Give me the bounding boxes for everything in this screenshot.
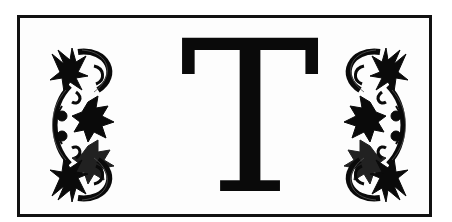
fleur-de-lis-ornament-right-icon <box>338 46 410 204</box>
decorative-initial-frame: T <box>17 15 432 217</box>
initial-letter: T <box>170 24 330 214</box>
fleur-de-lis-ornament-left-icon <box>48 46 120 204</box>
